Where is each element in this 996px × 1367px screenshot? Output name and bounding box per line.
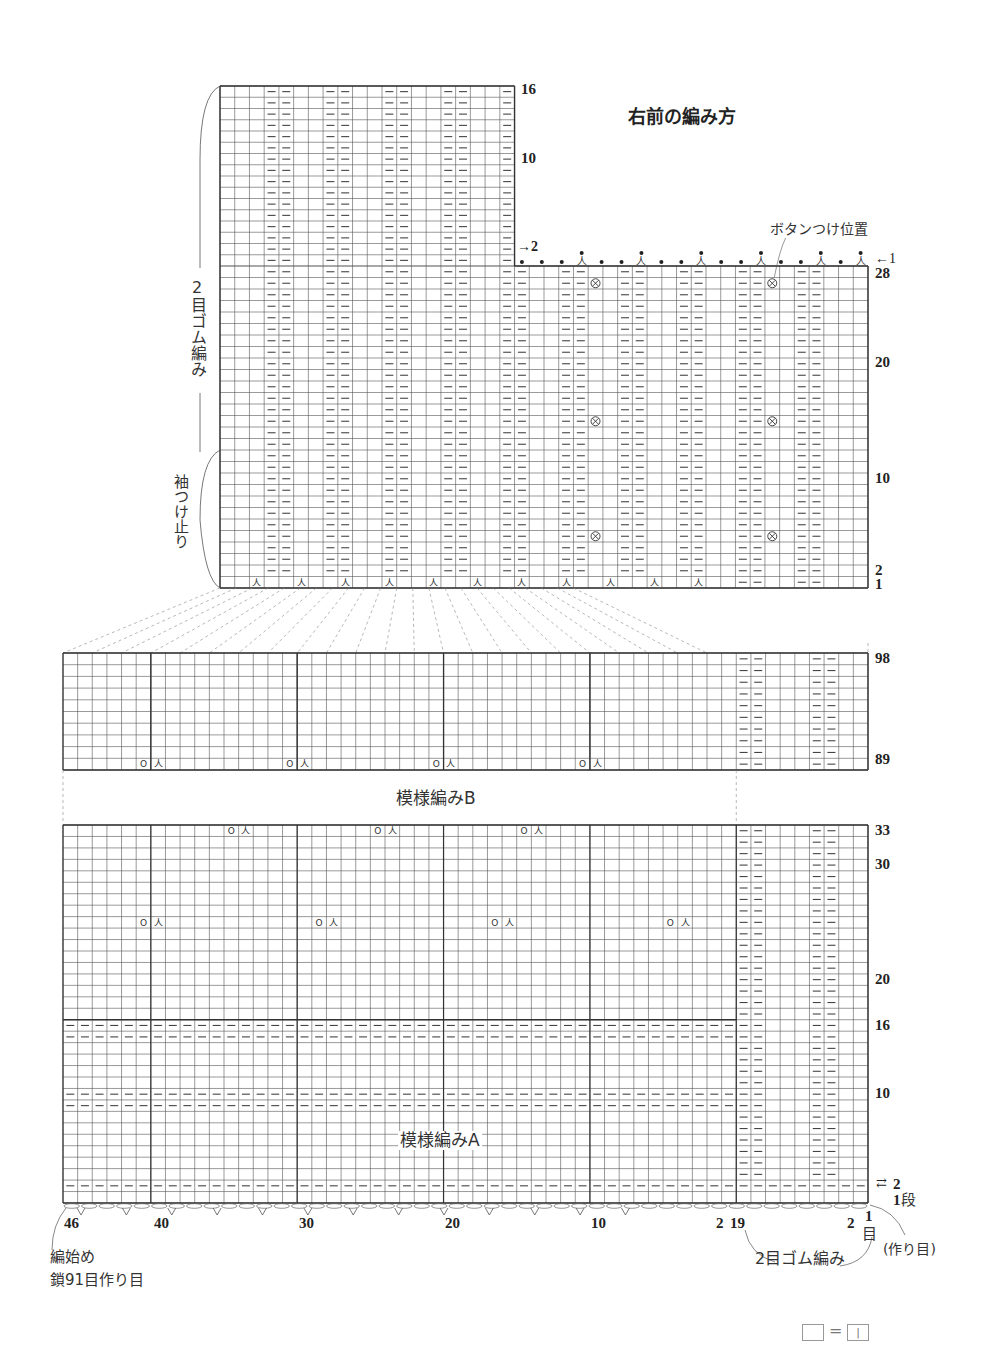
button-position-label: ボタンつけ位置 [770, 222, 868, 237]
row-label-20: 20 [875, 972, 890, 987]
svg-text:O: O [491, 918, 498, 928]
stitch-label-20: 20 [445, 1216, 460, 1231]
row-label-2-a: 2 [893, 1177, 901, 1192]
stitch-label-1: 1 [865, 1209, 873, 1224]
stitch-label-40: 40 [154, 1216, 169, 1231]
svg-text:人: 人 [636, 256, 646, 267]
arrow-row-1: ←1 [875, 252, 896, 266]
row-label-28: 28 [875, 266, 890, 281]
arrow-row-2: →2 [517, 240, 538, 254]
start-label-line1: 編始め [50, 1249, 95, 1266]
svg-text:人: 人 [606, 578, 615, 588]
row-label-2-arrow: 2 [531, 239, 538, 254]
legend-equals: = [829, 1321, 842, 1340]
stitch-label-10: 10 [591, 1216, 606, 1231]
svg-text:人: 人 [756, 256, 766, 267]
svg-text:人: 人 [816, 256, 826, 267]
row-label-33: 33 [875, 823, 890, 838]
row-label-1-arrow: 1 [889, 251, 896, 266]
svg-text:O: O [579, 759, 586, 769]
row-label-1-a: 1段 [893, 1192, 916, 1209]
start-label-line2: 鎖91目作り目 [50, 1272, 144, 1289]
svg-text:O: O [433, 759, 440, 769]
knit-stitch-icon: | [856, 1326, 860, 1339]
legend: = | [802, 1323, 872, 1341]
sleeve-stop-label: 袖つけ止り [172, 474, 189, 549]
page-title: 右前の編み方 [628, 107, 736, 127]
svg-text:人: 人 [341, 578, 350, 588]
stitch-label-2-left: 2 [716, 1216, 724, 1231]
row-unit-label: 段 [901, 1191, 916, 1209]
svg-text:人: 人 [650, 578, 659, 588]
stitch-label-30: 30 [299, 1216, 314, 1231]
row-label-20: 20 [875, 355, 890, 370]
svg-text:人: 人 [505, 918, 514, 928]
svg-text:人: 人 [577, 256, 587, 267]
stitch-unit-label: 目 [862, 1226, 877, 1243]
svg-text:人: 人 [517, 578, 526, 588]
svg-text:O: O [286, 759, 293, 769]
svg-text:人: 人 [429, 578, 438, 588]
pattern-a-label: 模様編みA [398, 1131, 482, 1150]
svg-text:人: 人 [241, 826, 250, 836]
svg-text:人: 人 [534, 826, 543, 836]
svg-text:人: 人 [593, 759, 602, 769]
legend-blank-square [802, 1324, 824, 1341]
rib-bottom-label: 2目ゴム編み [755, 1250, 845, 1268]
stitch-label-2-right: 2 [847, 1216, 855, 1231]
svg-text:人: 人 [473, 578, 482, 588]
row-label-10: 10 [875, 1086, 890, 1101]
svg-text:O: O [374, 826, 381, 836]
row-label-10-top: 10 [521, 151, 536, 166]
svg-text:O: O [667, 918, 674, 928]
row-label-16-top: 16 [521, 82, 536, 97]
svg-text:人: 人 [154, 759, 163, 769]
row-label-30: 30 [875, 857, 890, 872]
row-label-1: 1 [875, 577, 883, 592]
svg-text:O: O [520, 826, 527, 836]
row-label-98: 98 [875, 651, 890, 666]
svg-text:人: 人 [300, 759, 309, 769]
svg-text:O: O [228, 826, 235, 836]
svg-text:人: 人 [446, 759, 455, 769]
svg-text:O: O [316, 918, 323, 928]
svg-text:人: 人 [297, 578, 306, 588]
row-label-16: 16 [875, 1018, 890, 1033]
stitch-label-19: 19 [730, 1216, 745, 1231]
svg-text:人: 人 [252, 578, 261, 588]
stitch-label-46: 46 [64, 1216, 79, 1231]
svg-text:人: 人 [696, 256, 706, 267]
pattern-b-label: 模様編みB [396, 789, 476, 808]
row-label-2-bottom: ⇄ [876, 1176, 887, 1189]
svg-text:人: 人 [562, 578, 571, 588]
row-label-10: 10 [875, 471, 890, 486]
row-label-89: 89 [875, 752, 890, 767]
row-label-1-value: 1 [893, 1192, 901, 1208]
legend-knit-square: | [847, 1324, 869, 1341]
svg-text:人: 人 [856, 256, 866, 267]
svg-text:人: 人 [154, 918, 163, 928]
svg-text:O: O [140, 918, 147, 928]
svg-text:O: O [140, 759, 147, 769]
knitting-chart-grid: 人人人人人人人人人人人人人人人人人O人O人O人O人O人O人O人O人O人O人O人 [0, 0, 996, 1367]
svg-text:人: 人 [329, 918, 338, 928]
rib-label-vertical: 2目ゴム編み [188, 278, 206, 377]
svg-text:人: 人 [388, 826, 397, 836]
cast-on-label: (作り目) [883, 1242, 936, 1257]
svg-text:人: 人 [694, 578, 703, 588]
svg-text:人: 人 [681, 918, 690, 928]
svg-text:人: 人 [385, 578, 394, 588]
